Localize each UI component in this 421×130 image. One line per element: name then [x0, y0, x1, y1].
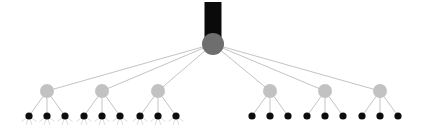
- leaf-node: [80, 112, 87, 119]
- tree-edge: [47, 44, 213, 91]
- leaf-node: [321, 112, 328, 119]
- tree-edge: [213, 44, 380, 91]
- leaf-node: [339, 112, 346, 119]
- internal-node: [151, 84, 165, 98]
- tree-edge: [213, 44, 325, 91]
- leaf-node: [43, 112, 50, 119]
- tree-diagram-canvas: [0, 0, 421, 130]
- internal-node: [373, 84, 387, 98]
- leaf-node: [172, 112, 179, 119]
- leaf-node: [116, 112, 123, 119]
- leaf-node: [98, 112, 105, 119]
- leaf-node: [266, 112, 273, 119]
- leaf-node: [284, 112, 291, 119]
- leaf-node: [303, 112, 310, 119]
- root-node-layer: [202, 33, 224, 55]
- leaf-node: [25, 112, 32, 119]
- tree-diagram-svg: [0, 0, 421, 130]
- root-node: [202, 33, 224, 55]
- leaf-node: [154, 112, 161, 119]
- internal-node: [40, 84, 54, 98]
- leaf-node: [61, 112, 68, 119]
- tree-edge: [102, 44, 213, 91]
- internal-node: [318, 84, 332, 98]
- leaf-node: [136, 112, 143, 119]
- leaf-node: [376, 112, 383, 119]
- tree-edge: [213, 44, 270, 91]
- leaf-node: [394, 112, 401, 119]
- internal-nodes-layer: [40, 84, 387, 98]
- internal-node: [263, 84, 277, 98]
- internal-node: [95, 84, 109, 98]
- leaf-node: [248, 112, 255, 119]
- leaf-nodes-layer: [25, 112, 401, 119]
- leaf-node: [358, 112, 365, 119]
